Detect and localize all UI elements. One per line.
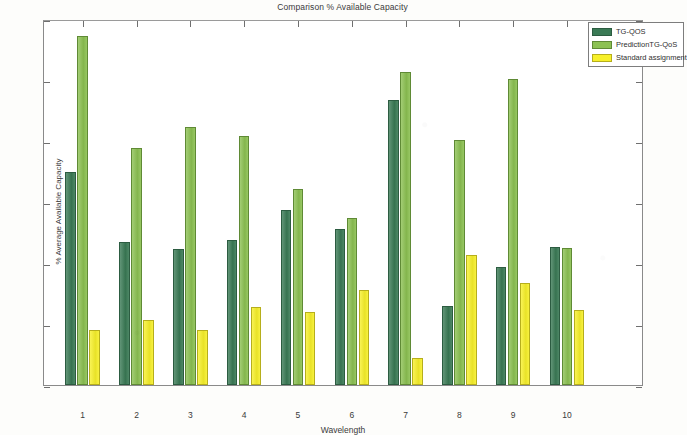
bar-tg-qos-w6 xyxy=(335,229,346,385)
y-axis-title: % Average Available Capacity xyxy=(54,112,63,312)
bar-standard-assignment-w3 xyxy=(197,330,208,385)
x-tick-label: 10 xyxy=(552,410,582,420)
y-tick xyxy=(636,82,642,83)
legend-label-tg-qos: TG-QOS xyxy=(616,27,646,36)
bar-predictiontg-qos-w10 xyxy=(562,248,573,385)
bar-standard-assignment-w6 xyxy=(359,290,370,385)
bar-tg-qos-w1 xyxy=(65,172,76,385)
bar-standard-assignment-w7 xyxy=(412,358,423,385)
legend-label-standard-assignment: Standard assignment xyxy=(616,53,687,62)
x-tick xyxy=(352,21,353,27)
legend-label-prediction-tg-qos: PredictionTG-QoS xyxy=(616,40,677,49)
legend-swatch-tg-qos xyxy=(592,28,612,36)
x-tick-label: 4 xyxy=(229,410,259,420)
y-tick xyxy=(44,387,50,388)
plot-area: 0102030405060 12345678910 % Average Avai… xyxy=(43,20,643,386)
bar-tg-qos-w8 xyxy=(442,306,453,385)
y-tick xyxy=(44,21,50,22)
y-tick xyxy=(44,82,50,83)
y-tick xyxy=(44,143,50,144)
x-tick-label: 1 xyxy=(68,410,98,420)
bar-tg-qos-w3 xyxy=(173,249,184,385)
bar-predictiontg-qos-w3 xyxy=(185,127,196,385)
x-tick xyxy=(513,21,514,27)
y-tick xyxy=(44,326,50,327)
bar-standard-assignment-w2 xyxy=(143,320,154,385)
x-axis-title: Wavelength xyxy=(44,425,642,435)
x-tick xyxy=(459,21,460,27)
legend-item-2: Standard assignment xyxy=(592,51,681,64)
y-tick xyxy=(44,265,50,266)
bar-standard-assignment-w4 xyxy=(251,307,262,385)
bar-standard-assignment-w1 xyxy=(89,330,100,386)
x-tick-label: 8 xyxy=(444,410,474,420)
bar-predictiontg-qos-w8 xyxy=(454,140,465,385)
y-tick xyxy=(636,204,642,205)
x-tick xyxy=(83,21,84,27)
x-tick xyxy=(190,21,191,27)
chart-title: Comparison % Available Capacity xyxy=(0,2,685,12)
bar-standard-assignment-w8 xyxy=(466,255,477,385)
y-tick xyxy=(636,326,642,327)
bar-tg-qos-w10 xyxy=(550,247,561,385)
bar-predictiontg-qos-w5 xyxy=(293,189,304,385)
legend-item-1: PredictionTG-QoS xyxy=(592,38,681,51)
x-tick-label: 2 xyxy=(122,410,152,420)
x-tick-label: 9 xyxy=(498,410,528,420)
legend-item-0: TG-QOS xyxy=(592,25,681,38)
bar-standard-assignment-w5 xyxy=(305,312,316,385)
x-tick xyxy=(406,21,407,27)
bar-predictiontg-qos-w1 xyxy=(77,36,88,385)
bar-tg-qos-w5 xyxy=(281,210,292,385)
x-tick-label: 7 xyxy=(391,410,421,420)
bar-tg-qos-w7 xyxy=(388,100,399,385)
bar-predictiontg-qos-w7 xyxy=(400,72,411,385)
bar-predictiontg-qos-w2 xyxy=(131,148,142,385)
legend-swatch-standard-assignment xyxy=(592,54,612,62)
y-tick xyxy=(636,265,642,266)
bar-tg-qos-w2 xyxy=(119,242,130,385)
x-tick xyxy=(567,21,568,27)
x-tick-label: 6 xyxy=(337,410,367,420)
bar-standard-assignment-w10 xyxy=(574,310,585,385)
bar-predictiontg-qos-w4 xyxy=(239,136,250,385)
bar-standard-assignment-w9 xyxy=(520,283,531,385)
chart-legend: TG-QOS PredictionTG-QoS Standard assignm… xyxy=(588,22,684,67)
y-tick xyxy=(636,387,642,388)
legend-swatch-prediction-tg-qos xyxy=(592,41,612,49)
bar-predictiontg-qos-w6 xyxy=(347,218,358,385)
bar-predictiontg-qos-w9 xyxy=(508,79,519,385)
y-tick xyxy=(636,143,642,144)
x-tick-label: 5 xyxy=(283,410,313,420)
y-tick xyxy=(44,204,50,205)
x-tick xyxy=(244,21,245,27)
bar-tg-qos-w9 xyxy=(496,267,507,385)
x-tick xyxy=(298,21,299,27)
bar-tg-qos-w4 xyxy=(227,240,238,385)
x-tick-label: 3 xyxy=(175,410,205,420)
x-tick xyxy=(137,21,138,27)
